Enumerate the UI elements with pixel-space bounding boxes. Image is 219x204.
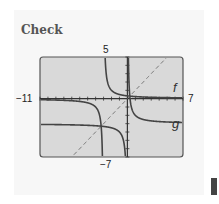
y-min-label: −7 <box>100 159 111 170</box>
curve-label-g: g <box>172 116 179 131</box>
edge-marker <box>211 178 217 195</box>
graph-window <box>40 57 183 157</box>
graph-plot <box>0 0 219 204</box>
x-max-label: 7 <box>188 93 194 104</box>
curve-label-f: f <box>173 80 177 95</box>
y-max-label: 5 <box>103 44 109 55</box>
x-min-label: −11 <box>16 93 32 104</box>
